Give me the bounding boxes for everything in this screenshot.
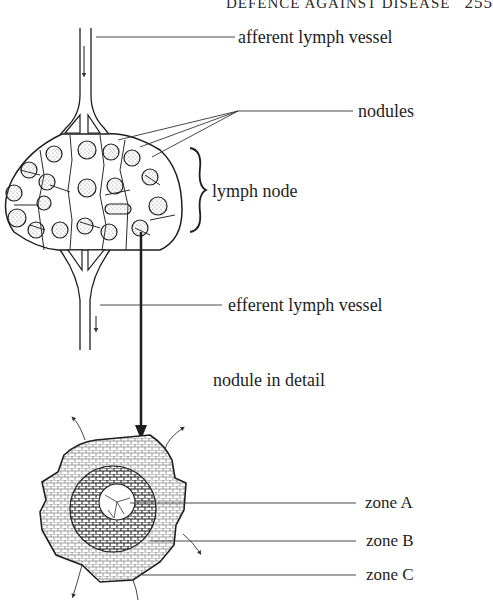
- label-nodule-in-detail: nodule in detail: [213, 371, 325, 389]
- label-nodules: nodules: [358, 102, 414, 120]
- nodule-detail: [40, 418, 356, 600]
- label-zone-a: zone A: [365, 494, 413, 511]
- label-zone-c: zone C: [366, 566, 414, 583]
- label-efferent-lymph-vessel: efferent lymph vessel: [228, 296, 383, 314]
- lymph-node-brace: [190, 148, 206, 232]
- page-number: 255: [464, 0, 493, 12]
- efferent-lymph-vessel: [60, 250, 110, 350]
- label-afferent-lymph-vessel: afferent lymph vessel: [238, 28, 393, 46]
- label-lymph-node: lymph node: [212, 182, 298, 200]
- afferent-lymph-vessel: [60, 28, 112, 138]
- label-zone-b: zone B: [366, 532, 414, 549]
- efferent-valves: [68, 250, 104, 270]
